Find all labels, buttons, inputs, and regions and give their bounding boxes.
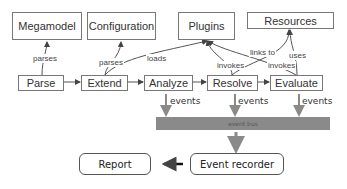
event-bus-label: event bus — [228, 120, 258, 127]
step-label: Evaluate — [275, 77, 318, 89]
report-box: Report — [79, 153, 151, 175]
pipeline-step-resolve: Resolve — [207, 75, 258, 91]
resources-box: Resources — [247, 12, 334, 29]
pipeline-step-analyze: Analyze — [144, 75, 193, 91]
pipeline-step-evaluate: Evaluate — [270, 75, 323, 91]
events-label-analyze: events — [170, 96, 200, 106]
event-recorder-label: Event recorder — [200, 159, 274, 170]
step-label: Parse — [27, 77, 56, 89]
events-label-evaluate: events — [302, 96, 332, 106]
pipeline-step-parse: Parse — [18, 75, 64, 91]
event-bus: event bus — [156, 117, 330, 130]
edge-label-parses-megamodel: parses — [32, 54, 58, 63]
pipeline-step-extend: Extend — [81, 75, 128, 91]
megamodel-label: Megamodel — [18, 20, 75, 32]
edge-label-loads: loads — [146, 54, 167, 63]
configuration-box: Configuration — [87, 12, 156, 40]
report-label: Report — [98, 159, 131, 170]
plugins-box: Plugins — [178, 12, 235, 40]
edge-label-uses: uses — [288, 51, 307, 60]
step-label: Analyze — [149, 77, 188, 89]
edge-label-invokes-evaluate: invokes — [267, 61, 296, 70]
edge-label-parses-configuration: parses — [98, 58, 124, 67]
events-label-resolve: events — [238, 96, 268, 106]
step-label: Resolve — [213, 77, 253, 89]
event-recorder-box: Event recorder — [190, 153, 284, 175]
resources-label: Resources — [264, 15, 317, 27]
plugins-label: Plugins — [188, 20, 224, 32]
edge-label-invokes-resolve: invokes — [216, 61, 245, 70]
configuration-label: Configuration — [89, 20, 154, 32]
edge-label-links-to: links to — [249, 48, 276, 57]
megamodel-box: Megamodel — [12, 12, 82, 40]
step-label: Extend — [87, 77, 121, 89]
